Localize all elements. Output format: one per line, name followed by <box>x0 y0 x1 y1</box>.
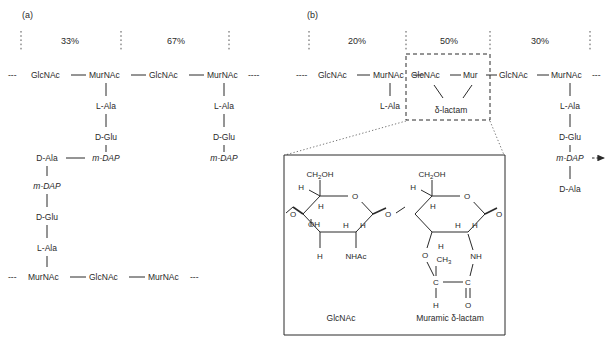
residue-a-lower-2: D-Glu <box>36 212 58 222</box>
residue-a-stemL-3: m-DAP <box>92 153 120 163</box>
backbone-a-top-unit-4: MurNAc <box>207 70 238 80</box>
panel-a-label: (a) <box>22 10 33 20</box>
muramic-bond-c-nh <box>470 264 473 276</box>
glcnac-h2b: H <box>360 221 366 230</box>
percentage-b-2: 50% <box>440 36 458 46</box>
residue-b-stemL-2: D-Glu <box>559 132 581 142</box>
backbone-a-top-left-dashes: --- <box>8 70 17 80</box>
muramic-lactam-carbon-left: C <box>433 278 439 287</box>
glcnac-oh: OH <box>308 220 320 229</box>
bond-b-lactam-left <box>434 85 443 98</box>
backbone-b-unit-5: GlcNAc <box>499 70 529 80</box>
percentage-b-1: 20% <box>348 36 366 46</box>
percentage-a-1: 33% <box>61 36 79 46</box>
leader-line-left <box>285 121 406 155</box>
figure-canvas: (a) 33% 67% --- GlcNAc MurNAc GlcNAc Mur… <box>0 0 614 348</box>
percentage-a-2: 67% <box>167 36 185 46</box>
residue-a-stemR-3: m-DAP <box>210 153 238 163</box>
glcnac-h5b: H <box>318 202 324 211</box>
backbone-b-left-dashes: ---- <box>296 70 307 80</box>
residue-b-stemL-1: L-Ala <box>560 101 580 111</box>
backbone-b-unit-1: GlcNAc <box>318 70 348 80</box>
glcnac-nhac: NHAc <box>346 252 367 261</box>
backbone-a-top-unit-2: MurNAc <box>89 70 120 80</box>
glcnac-ring-oxygen: O <box>352 192 358 201</box>
glcnac-ch2oh: CH2OH <box>307 170 334 180</box>
muramic-ring-oxygen: O <box>464 192 470 201</box>
residue-a-lower-1: m-DAP <box>33 181 61 191</box>
inset-caption-glcnac: GlcNAc <box>327 313 357 323</box>
muramic-h-lactam: H <box>433 301 439 310</box>
glcnac-glyco-o-left: O <box>290 210 296 219</box>
muramic-h5: H <box>410 183 416 192</box>
muramic-bond-nh-c2 <box>468 234 473 250</box>
backbone-a-bot-unit-3: MurNAc <box>148 272 179 282</box>
residue-a-stemL-1: L-Ala <box>96 101 116 111</box>
muramic-ch2oh: CH2OH <box>419 170 446 180</box>
glcnac-h3: H <box>317 252 323 261</box>
backbone-a-top-unit-3: GlcNAc <box>149 70 179 80</box>
muramic-bond-c3-o <box>427 232 432 248</box>
backbone-b-unit-4: Mur <box>463 70 478 80</box>
backbone-b-unit-2: MurNAc <box>373 70 404 80</box>
residue-a-stemL-2: D-Glu <box>95 132 117 142</box>
glcnac-glyco-o-right: O <box>385 210 391 219</box>
glcnac-h2: H <box>343 221 349 230</box>
backbone-b-unit-6: MurNAc <box>551 70 582 80</box>
backbone-a-top-unit-1: GlcNAc <box>31 70 61 80</box>
inset-caption-muramic-lactam: Muramic δ-lactam <box>416 313 484 323</box>
figure-peptidoglycan-comparison: (a) 33% 67% --- GlcNAc MurNAc GlcNAc Mur… <box>0 0 614 348</box>
glcnac-bond-h5 <box>309 190 320 196</box>
backbone-a-bot-unit-1: MurNAc <box>28 272 59 282</box>
glcnac-h5: H <box>298 183 304 192</box>
muramic-h3: H <box>438 242 444 251</box>
residue-a-lower-3: L-Ala <box>37 243 57 253</box>
muramic-carbonyl-oxygen: O <box>465 301 471 310</box>
bond-b-lactam-right <box>463 85 472 98</box>
residue-b-stemL-4: D-Ala <box>559 184 581 194</box>
muramic-glyco-o-right: O <box>496 210 502 219</box>
backbone-b-unit-3: GlcNAc <box>411 70 441 80</box>
residue-a-stemR-2: D-Glu <box>213 132 235 142</box>
residue-b-stem1-lala: L-Ala <box>380 101 400 111</box>
residue-a-stemR-1: L-Ala <box>214 101 234 111</box>
backbone-a-bot-right-dashes: --- <box>190 272 199 282</box>
muramic-bond-o-cl <box>427 262 434 276</box>
residue-b-stemL-3: m-DAP <box>556 153 584 163</box>
muramic-h5b: H <box>430 202 436 211</box>
muramic-bond-h5 <box>421 190 432 196</box>
glcnac-bond-glyco-right-out <box>396 207 405 213</box>
muramic-lactam-carbon-right: C <box>465 278 471 287</box>
muramic-lactam-ring-structure: O CH2OH H H O H H H O C CH3 H C O NH <box>410 170 502 310</box>
backbone-a-top-right-dashes: ---- <box>248 70 259 80</box>
muramic-amide-nh: NH <box>470 252 482 261</box>
muramic-lactam-o: O <box>422 251 428 260</box>
muramic-h2b: H <box>472 221 478 230</box>
muramic-h2: H <box>455 221 461 230</box>
backbone-a-bot-left-dashes: --- <box>8 272 17 282</box>
panel-b-label: (b) <box>307 10 318 20</box>
leader-line-right <box>490 121 504 155</box>
muramic-ch3: CH3 <box>437 255 453 265</box>
label-delta-lactam: δ-lactam <box>435 105 468 115</box>
backbone-a-bot-unit-2: GlcNAc <box>89 272 119 282</box>
glcnac-ring-structure: O CH2OH H H O OH H NHAc H H O <box>286 170 405 261</box>
backbone-b-right-dashes: --- <box>592 70 601 80</box>
residue-a-crosslink-dala: D-Ala <box>36 153 58 163</box>
percentage-b-3: 30% <box>531 36 549 46</box>
